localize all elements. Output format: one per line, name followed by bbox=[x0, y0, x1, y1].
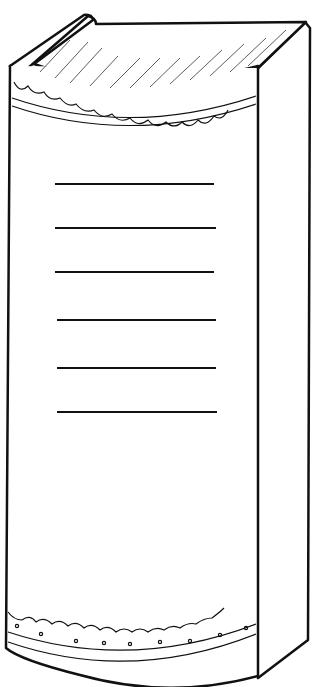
book-spine-illustration bbox=[0, 0, 321, 687]
book-icon bbox=[0, 0, 321, 687]
